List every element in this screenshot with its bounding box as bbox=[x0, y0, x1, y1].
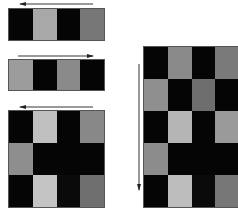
grid-cell bbox=[215, 47, 238, 79]
grid-cell bbox=[33, 111, 57, 143]
grid-cell bbox=[80, 111, 104, 143]
grid-cell bbox=[168, 79, 192, 111]
grid-cell bbox=[144, 47, 168, 79]
grid-cell bbox=[168, 175, 192, 207]
grid-cell bbox=[192, 111, 216, 143]
grid-cell bbox=[215, 175, 238, 207]
grid-cell bbox=[33, 9, 57, 40]
grid-cell bbox=[57, 111, 81, 143]
grid-cell bbox=[192, 79, 216, 111]
grid-cell bbox=[192, 143, 216, 175]
grid-cell bbox=[144, 175, 168, 207]
grid-cell bbox=[33, 60, 57, 90]
grid-cell bbox=[144, 111, 168, 143]
grid-cell bbox=[168, 47, 192, 79]
grid-cell bbox=[33, 143, 57, 175]
grid-cell bbox=[57, 143, 81, 175]
panel-grid-3x4 bbox=[8, 110, 105, 208]
grid-cell bbox=[57, 9, 81, 40]
grid-cell bbox=[80, 9, 104, 40]
grid-cell bbox=[80, 60, 104, 90]
grid-cell bbox=[80, 175, 104, 207]
grid-cell bbox=[9, 9, 33, 40]
grid-cell bbox=[168, 111, 192, 143]
panel-strip-2 bbox=[8, 59, 105, 91]
grid-cell bbox=[192, 175, 216, 207]
panel-grid-5x4 bbox=[143, 46, 238, 208]
panel-strip-1 bbox=[8, 8, 105, 41]
grid-cell bbox=[57, 60, 81, 90]
grid-cell bbox=[9, 143, 33, 175]
grid-cell bbox=[192, 47, 216, 79]
grid-cell bbox=[144, 143, 168, 175]
grid-cell bbox=[215, 143, 238, 175]
grid-cell bbox=[57, 175, 81, 207]
grid-cell bbox=[9, 60, 33, 90]
grid-cell bbox=[215, 111, 238, 143]
grid-cell bbox=[9, 111, 33, 143]
grid-cell bbox=[144, 79, 168, 111]
grid-cell bbox=[9, 175, 33, 207]
grid-cell bbox=[80, 143, 104, 175]
grid-cell bbox=[215, 79, 238, 111]
grid-cell bbox=[33, 175, 57, 207]
grid-cell bbox=[168, 143, 192, 175]
